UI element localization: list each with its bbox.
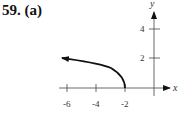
x-tick-label: -4 — [92, 99, 100, 109]
x-tick-label: -2 — [121, 99, 129, 109]
y-axis-label: y — [149, 0, 155, 9]
x-tick-label: -6 — [63, 99, 71, 109]
y-ticks — [149, 29, 160, 58]
graph: -6 -4 -2 2 4 x y — [0, 0, 193, 123]
function-curve — [62, 58, 125, 88]
x-axis-label: x — [172, 82, 178, 93]
y-tick-label: 2 — [140, 53, 145, 63]
y-tick-label: 4 — [140, 24, 145, 34]
